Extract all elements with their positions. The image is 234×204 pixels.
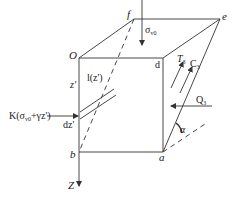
vertex-label-d: d	[155, 59, 160, 70]
l-z-label: l(z')	[87, 72, 103, 84]
block-diagram: O f e d b a Z σv0 z' l(z') dz' K(σv0+γz'…	[0, 0, 234, 204]
k-expression-label: K(σv0+γz')	[9, 110, 51, 122]
z-prime-label: z'	[69, 79, 77, 90]
vertex-label-b: b	[70, 148, 76, 160]
t3-label: T3	[177, 53, 186, 65]
z-axis-label: Z	[68, 179, 75, 191]
vertex-label-O: O	[69, 49, 77, 61]
alpha-label: α	[180, 124, 186, 135]
q3-label: Q3	[196, 94, 206, 106]
l-z-line-top	[80, 89, 114, 112]
vertex-label-e: e	[222, 10, 227, 22]
vertex-label-f: f	[127, 8, 132, 20]
dz-prime-label: dz'	[63, 119, 74, 130]
c3-label: C3	[190, 58, 200, 70]
l-z-line-bottom	[80, 95, 116, 119]
vertex-label-a: a	[159, 151, 165, 163]
t3-arrow	[171, 62, 183, 88]
sigma-v0-label: σv0	[145, 24, 156, 36]
